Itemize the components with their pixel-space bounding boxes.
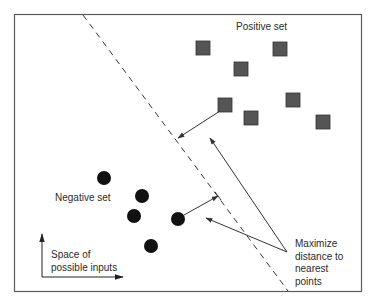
maximize-line4: points	[295, 276, 343, 289]
positive-point	[286, 93, 300, 107]
positive-point	[316, 115, 330, 129]
maximize-line1: Maximize	[295, 238, 343, 251]
negative-point	[97, 171, 111, 185]
maximize-label: Maximize distance to nearest points	[295, 238, 343, 288]
space-label: Space of possible inputs	[51, 249, 117, 274]
negative-point	[144, 239, 158, 253]
maximize-line2: distance to	[295, 251, 343, 264]
maximize-line3: nearest	[295, 263, 343, 276]
positive-set-label: Positive set	[236, 21, 287, 34]
space-label-line1: Space of	[51, 249, 117, 262]
positive-point	[218, 98, 232, 112]
positive-point	[273, 42, 287, 56]
negative-point	[127, 209, 141, 223]
negative-point	[135, 189, 149, 203]
negative-set-label: Negative set	[55, 192, 111, 205]
space-label-line2: possible inputs	[51, 262, 117, 275]
positive-point	[234, 62, 248, 76]
positive-point	[196, 41, 210, 55]
negative-point	[171, 212, 185, 226]
positive-point	[244, 111, 258, 125]
